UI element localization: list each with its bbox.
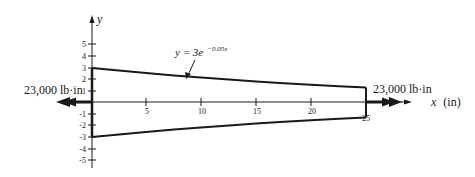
x-tick-label: 10 — [198, 107, 206, 116]
curve-equation: y = 3e −0.05x — [174, 42, 228, 59]
x-tick-label: 15 — [253, 107, 261, 116]
y-tick-label: -1 — [79, 110, 86, 119]
x-axis-arrow-icon — [404, 100, 412, 105]
y-axis-label: y — [96, 12, 103, 26]
right-torque-arrow2-icon — [389, 97, 402, 107]
y-tick-label: -2 — [79, 121, 86, 130]
y-tick-label: 4 — [82, 52, 86, 61]
x-axis-label-group: x (in) — [430, 92, 461, 109]
shaft-upper-profile — [92, 68, 366, 88]
left-torque-label: 23,000 lb·in — [24, 83, 83, 97]
y-axis-arrow-icon — [90, 15, 95, 23]
x-tick-labels: 5 10 15 20 25 — [145, 107, 370, 123]
x-axis-label: x — [430, 95, 437, 109]
right-torque-label: 23,000 lb·in — [373, 82, 432, 96]
equation-leader-arrow-icon — [185, 72, 191, 79]
y-tick-label: 5 — [82, 40, 86, 49]
diagram-canvas: y x (in) 5 4 3 2 1 -1 -2 -3 -4 -5 5 — [0, 0, 475, 177]
y-tick-label: 3 — [82, 64, 86, 73]
y-tick-label: -3 — [79, 133, 86, 142]
equation-leader-line — [188, 60, 195, 75]
x-tick-label: 5 — [145, 107, 149, 116]
shaft-lower-profile — [92, 117, 366, 137]
x-tick-label: 20 — [308, 107, 316, 116]
equation-base: y = 3e — [174, 46, 203, 58]
shaft-diagram: y x (in) 5 4 3 2 1 -1 -2 -3 -4 -5 5 — [0, 0, 475, 177]
y-tick-label: -4 — [79, 145, 86, 154]
y-tick-label: -5 — [79, 156, 86, 165]
x-axis-unit: (in) — [443, 95, 460, 109]
equation-exponent: −0.05x — [207, 45, 228, 53]
